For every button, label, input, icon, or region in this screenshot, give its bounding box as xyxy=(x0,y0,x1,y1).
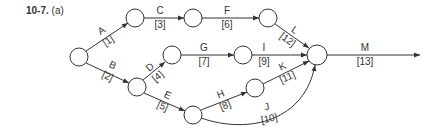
node-4 xyxy=(259,9,277,27)
node-2 xyxy=(126,9,144,27)
node-6 xyxy=(234,46,252,64)
node-7 xyxy=(307,45,327,65)
network-diagram: A [1] B [2] C [3] F [6] L [12] D [4] G [… xyxy=(0,0,440,133)
duration-f: [6] xyxy=(221,19,232,30)
node-5 xyxy=(163,46,181,64)
label-f: F xyxy=(224,5,230,16)
label-m: M xyxy=(361,42,369,53)
node-10 xyxy=(246,79,264,97)
duration-c: [3] xyxy=(154,19,165,30)
node-1 xyxy=(70,48,88,66)
node-3 xyxy=(184,9,202,27)
label-i: I xyxy=(263,42,266,53)
node-9 xyxy=(184,106,202,124)
duration-g: [7] xyxy=(198,56,209,67)
duration-i: [9] xyxy=(258,56,269,67)
duration-j: [10] xyxy=(260,111,279,125)
label-g: G xyxy=(200,42,208,53)
node-8 xyxy=(128,78,146,96)
label-c: C xyxy=(156,5,163,16)
duration-m: [13] xyxy=(357,56,374,67)
label-j: J xyxy=(263,101,270,113)
